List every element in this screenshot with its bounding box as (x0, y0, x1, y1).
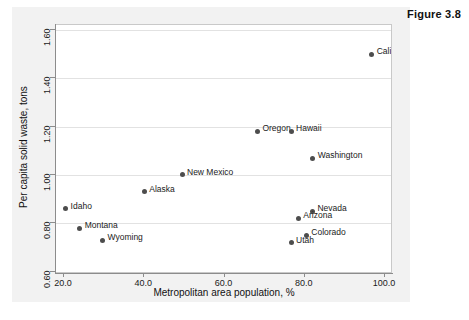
x-tick-label: 100.0 (373, 279, 396, 288)
point-marker-icon (369, 52, 374, 57)
x-tick-mark (224, 273, 225, 277)
y-tick-label: 0.80 (43, 222, 52, 254)
y-axis-line (55, 24, 56, 273)
x-axis-title: Metropolitan area population, % (55, 288, 393, 298)
scatter-plot-area: CaliforniaOregonHawaiiWashingtonNew Mexi… (55, 24, 392, 273)
y-tick-label: 1.60 (43, 28, 52, 60)
x-tick-mark (143, 273, 144, 277)
gridline-y-1.60 (56, 30, 391, 31)
gridline-y-1.20 (56, 127, 391, 128)
x-tick-mark (63, 273, 64, 277)
point-label: Oregon (262, 124, 290, 133)
point-marker-icon (289, 129, 294, 134)
point-label: New Mexico (187, 168, 233, 177)
figure-container: Figure 3.8 CaliforniaOregonHawaiiWashing… (0, 0, 469, 320)
point-label: Hawaii (296, 124, 322, 133)
point-label: Wyoming (108, 233, 143, 242)
point-marker-icon (289, 240, 294, 245)
x-tick-label: 80.0 (295, 279, 313, 288)
point-marker-icon (255, 129, 260, 134)
point-label: Alaska (149, 185, 175, 194)
x-tick-label: 20.0 (54, 279, 72, 288)
point-marker-icon (63, 206, 68, 211)
y-tick-label: 1.20 (43, 125, 52, 157)
point-marker-icon (180, 172, 185, 177)
point-label: Arizona (303, 211, 332, 220)
point-label: California (377, 47, 392, 56)
point-marker-icon (100, 238, 105, 243)
y-tick-label: 1.00 (43, 173, 52, 205)
y-axis-title: Per capita solid waste, tons (19, 57, 29, 237)
point-label: Colorado (311, 228, 346, 237)
gridline-y-1.40 (56, 78, 391, 79)
point-marker-icon (77, 226, 82, 231)
point-label: Idaho (71, 202, 92, 211)
point-label: Utah (296, 236, 314, 245)
point-marker-icon (142, 189, 147, 194)
y-tick-label: 0.60 (43, 270, 52, 302)
y-tick-label: 1.40 (43, 77, 52, 109)
point-marker-icon (310, 156, 315, 161)
x-tick-mark (384, 273, 385, 277)
point-label: Washington (318, 151, 363, 160)
point-label: Montana (85, 221, 118, 230)
x-tick-mark (304, 273, 305, 277)
point-marker-icon (296, 216, 301, 221)
figure-caption: Figure 3.8 (407, 8, 461, 20)
x-tick-label: 40.0 (135, 279, 153, 288)
